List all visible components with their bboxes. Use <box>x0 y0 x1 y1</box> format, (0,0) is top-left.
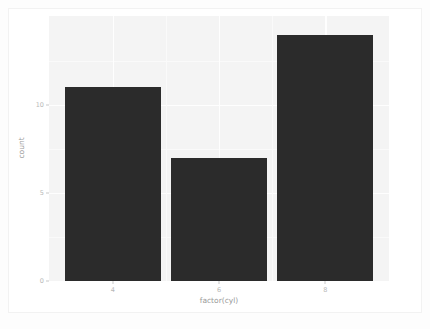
x-tick-label: 6 <box>217 287 221 294</box>
plot-panel <box>49 16 389 281</box>
x-tick-mark <box>112 281 113 284</box>
gridline-minor-vertical <box>166 16 167 281</box>
y-tick-mark <box>46 192 49 193</box>
screenshot-root: 0510 468 factor(cyl) count <box>0 0 430 329</box>
x-tick-label: 4 <box>111 287 115 294</box>
y-tick-label: 10 <box>36 102 44 109</box>
gridline-minor-vertical <box>272 16 273 281</box>
bar-cyl-6 <box>171 158 267 281</box>
y-tick-mark <box>46 281 49 282</box>
y-tick-mark <box>46 104 49 105</box>
bar-chart-figure: 0510 468 factor(cyl) count <box>0 0 430 329</box>
y-axis-title: count <box>18 137 26 158</box>
bar-cyl-4 <box>65 87 161 281</box>
x-tick-mark <box>325 281 326 284</box>
x-axis-title: factor(cyl) <box>49 297 389 305</box>
x-tick-mark <box>219 281 220 284</box>
x-tick-label: 8 <box>323 287 327 294</box>
y-tick-label: 0 <box>40 278 44 285</box>
bar-cyl-8 <box>277 35 373 282</box>
y-tick-label: 5 <box>40 190 44 197</box>
